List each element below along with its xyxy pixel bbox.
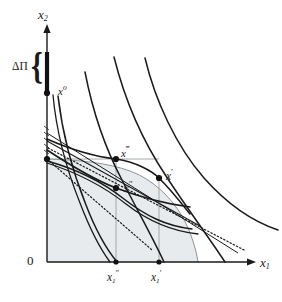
profit-change-label: ΔΠ xyxy=(12,61,28,73)
tick-label-x1-double-prime: x1″ xyxy=(107,270,119,285)
economics-diagram: x2 x1 0 ΔΠ { xo x‴ x″ x′ x1″ x1′ xyxy=(0,0,282,302)
y-axis-label: x2 xyxy=(38,8,48,23)
tick-dot-x1-double-prime xyxy=(113,259,118,264)
y-axis-arrowhead xyxy=(43,24,50,33)
point-x-prime xyxy=(156,175,162,181)
tick-label-x1-prime: x1′ xyxy=(151,270,161,285)
label-point-x-prime: x′ xyxy=(166,168,173,182)
label-point-x-double-prime: x″ xyxy=(124,180,132,194)
x-axis-label: x1 xyxy=(260,256,270,271)
label-point-x-nought: xo xyxy=(58,84,67,97)
point-x-double-prime xyxy=(113,185,119,191)
point-y-intercept xyxy=(44,156,50,162)
profit-brace-icon: { xyxy=(31,48,43,86)
label-point-x-triple-prime: x‴ xyxy=(121,145,129,159)
tick-dot-x1-prime xyxy=(156,259,161,264)
point-x-nought xyxy=(44,90,50,96)
x-axis-arrowhead xyxy=(247,258,256,265)
point-x-triple-prime xyxy=(113,156,119,162)
origin-label: 0 xyxy=(27,254,34,267)
